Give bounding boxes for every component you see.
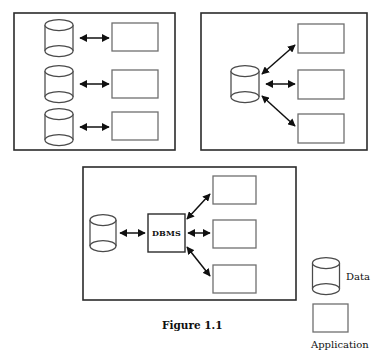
- application-1: [112, 23, 158, 51]
- figure-caption: Figure 1.1: [162, 319, 223, 331]
- panel-isolated-files: [14, 13, 175, 150]
- figure-container: DBMSFigure 1.1DataApplication: [0, 0, 387, 357]
- legend-application-label: Application: [310, 339, 369, 350]
- cylinder-top-ellipse: [45, 109, 73, 120]
- application-5: [298, 70, 344, 99]
- panel-shared-data: [201, 13, 367, 150]
- cylinder-top-ellipse: [313, 258, 340, 269]
- application-9: [213, 265, 256, 293]
- cylinder-bottom-ellipse: [313, 284, 340, 295]
- application-6: [298, 114, 344, 143]
- figure-diagram: DBMSFigure 1.1DataApplication: [0, 0, 387, 357]
- cylinder-top-ellipse: [45, 66, 73, 77]
- application-8: [213, 220, 256, 248]
- application-7: [213, 176, 256, 204]
- cylinder-bottom-ellipse: [231, 92, 259, 103]
- application-2: [112, 70, 158, 98]
- cylinder-top-ellipse: [231, 66, 259, 77]
- cylinder-bottom-ellipse: [45, 92, 73, 103]
- legend-application-box: [313, 304, 348, 332]
- legend-data-label: Data: [346, 271, 370, 282]
- application-4: [298, 24, 344, 53]
- cylinder-top-ellipse: [90, 215, 116, 226]
- legend-data-cylinder: [313, 258, 340, 295]
- cylinder-bottom-ellipse: [45, 135, 73, 146]
- application-3: [112, 112, 158, 140]
- legend: DataApplication: [310, 258, 370, 351]
- cylinder-top-ellipse: [45, 20, 73, 31]
- cylinder-bottom-ellipse: [90, 241, 116, 252]
- dbms-label: DBMS: [152, 228, 181, 238]
- cylinder-bottom-ellipse: [45, 46, 73, 57]
- panel-dbms: DBMS: [83, 167, 296, 300]
